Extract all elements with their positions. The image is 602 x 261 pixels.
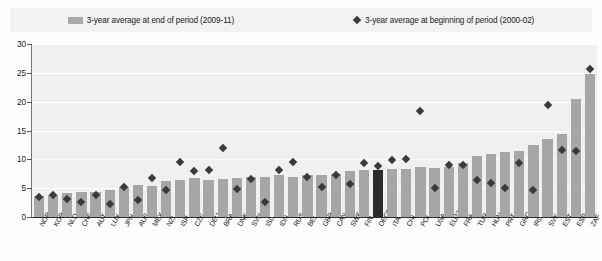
x-axis-label-cell: NOR	[32, 222, 46, 261]
x-axis-label-cell: SVN	[244, 222, 258, 261]
y-axis-tick-label: 20	[8, 97, 26, 106]
bar-svk	[542, 139, 552, 217]
chart-column	[385, 44, 399, 217]
chart-column	[371, 44, 385, 217]
chart-column	[512, 44, 526, 217]
x-axis-label-cell: ITA	[385, 222, 399, 261]
marker-zaf	[586, 65, 594, 73]
chart-column	[244, 44, 258, 217]
chart-column	[187, 44, 201, 217]
legend-bar-swatch-icon	[68, 17, 83, 24]
bar-isr	[175, 180, 185, 217]
x-axis-label-cell: NZL	[159, 222, 173, 261]
x-axis-label-cell: POL	[413, 222, 427, 261]
bar-eu27	[444, 167, 454, 217]
y-axis-tick-label: 0	[8, 213, 26, 222]
chart-column	[173, 44, 187, 217]
marker-rus	[289, 158, 297, 166]
x-axis-label-cell: HUN	[484, 222, 498, 261]
chart-column	[357, 44, 371, 217]
chart-column	[216, 44, 230, 217]
bar-deu	[203, 180, 213, 217]
chart-root: 3-year average at end of period (2009-11…	[0, 0, 602, 261]
bar-series-container	[32, 44, 597, 217]
legend-diamond-marker-icon	[353, 16, 361, 24]
chart-column	[74, 44, 88, 217]
marker-mex	[148, 174, 156, 182]
chart-legend: 3-year average at end of period (2009-11…	[10, 8, 592, 32]
marker-fin	[360, 159, 368, 167]
marker-deu	[204, 166, 212, 174]
chart-column	[470, 44, 484, 217]
chart-column	[32, 44, 46, 217]
bar-fin	[359, 170, 369, 217]
x-axis-label-cell: BEL	[300, 222, 314, 261]
chart-column	[315, 44, 329, 217]
bar-chl	[401, 169, 411, 217]
legend-item-bar-series: 3-year average at end of period (2009-11…	[68, 16, 234, 25]
bar-fra	[458, 163, 468, 217]
y-axis-tick-label: 15	[8, 126, 26, 135]
marker-oecd	[374, 162, 382, 170]
x-axis-label-cell: SWE	[343, 222, 357, 261]
y-axis-tick-label: 5	[8, 184, 26, 193]
bar-mex	[147, 186, 157, 217]
bar-bel	[302, 175, 312, 217]
x-axis-label-cell: CHE	[74, 222, 88, 261]
chart-column	[399, 44, 413, 217]
x-axis-label-cell: CZE	[187, 222, 201, 261]
chart-column	[230, 44, 244, 217]
chart-column	[202, 44, 216, 217]
y-axis-tick-label: 30	[8, 40, 26, 49]
x-axis-label-cell: IRL	[526, 222, 540, 261]
chart-column	[286, 44, 300, 217]
x-axis-label-cell: FRA	[456, 222, 470, 261]
bar-can	[331, 174, 341, 217]
x-axis-label-cell: BRA	[216, 222, 230, 261]
bar-rus	[288, 177, 298, 217]
x-axis-label-cell: PRT	[498, 222, 512, 261]
y-axis: 302520151050	[8, 40, 30, 216]
x-axis-label-cell: LUX	[103, 222, 117, 261]
x-axis-labels: NORKORNLDCHEAUTLUXJPNAUSMEXNZLISRCZEDEUB…	[32, 222, 597, 261]
bar-gbr	[316, 175, 326, 217]
y-axis-tick-mark	[27, 44, 32, 45]
chart-column	[498, 44, 512, 217]
x-axis-label-cell: CAN	[329, 222, 343, 261]
chart-column	[131, 44, 145, 217]
bar-bra	[218, 179, 228, 217]
chart-column	[555, 44, 569, 217]
marker-chl	[402, 155, 410, 163]
x-axis-label-cell: DEU	[202, 222, 216, 261]
bar-esp	[571, 99, 581, 217]
x-axis-label-cell: GRC	[512, 222, 526, 261]
chart-column	[159, 44, 173, 217]
legend-item-marker-series: 3-year average at beginning of period (2…	[354, 16, 534, 25]
chart-column	[60, 44, 74, 217]
bar-idn	[274, 175, 284, 217]
x-axis-label-cell: GBR	[315, 222, 329, 261]
y-axis-tick-mark	[27, 73, 32, 74]
bar-irl	[528, 145, 538, 217]
marker-idn	[275, 165, 283, 173]
bar-zaf	[585, 74, 595, 217]
bar-cze	[189, 178, 199, 217]
x-axis-label-cell: FIN	[357, 222, 371, 261]
marker-bra	[218, 144, 226, 152]
x-axis-label-cell: MEX	[145, 222, 159, 261]
marker-cze	[190, 167, 198, 175]
x-axis-label-cell: CHL	[399, 222, 413, 261]
y-axis-tick-mark	[27, 131, 32, 132]
y-axis-tick-mark	[27, 217, 32, 218]
bar-ita	[387, 169, 397, 217]
y-axis-tick-mark	[27, 188, 32, 189]
x-axis-label-cell: OECD	[371, 222, 385, 261]
x-axis-label-cell: RUS	[286, 222, 300, 261]
x-axis-label-cell: NLD	[60, 222, 74, 261]
chart-column	[145, 44, 159, 217]
x-axis-label-cell: EU27	[442, 222, 456, 261]
marker-pol	[416, 107, 424, 115]
x-axis-label-cell: AUS	[131, 222, 145, 261]
bar-pol	[415, 167, 425, 217]
chart-column	[46, 44, 60, 217]
